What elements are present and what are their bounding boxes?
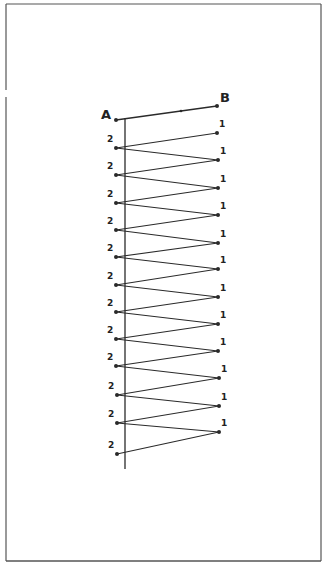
label-right-1: 1 bbox=[220, 337, 226, 347]
point-left bbox=[115, 393, 119, 397]
zigzag-segment bbox=[117, 378, 219, 395]
label-right-1: 1 bbox=[220, 174, 226, 184]
label-left-2: 2 bbox=[108, 381, 114, 391]
label-a: A bbox=[101, 107, 111, 122]
point-right bbox=[217, 404, 221, 408]
label-left-2: 2 bbox=[108, 409, 114, 419]
label-right-1: 1 bbox=[220, 255, 226, 265]
label-left-2: 2 bbox=[107, 271, 113, 281]
point-right bbox=[216, 158, 220, 162]
label-right-1: 1 bbox=[221, 418, 227, 428]
label-left-2: 2 bbox=[107, 161, 113, 171]
point-left bbox=[114, 337, 118, 341]
zigzag-segment bbox=[117, 406, 219, 423]
label-right-1: 1 bbox=[221, 392, 227, 402]
point-right bbox=[216, 213, 220, 217]
point-mid bbox=[180, 110, 183, 113]
point-left bbox=[114, 146, 118, 150]
zigzag-segment bbox=[116, 366, 219, 378]
zigzag-segment bbox=[116, 203, 218, 215]
zigzag-segment bbox=[116, 215, 218, 230]
zigzag-segment bbox=[116, 257, 218, 269]
point-left bbox=[114, 310, 118, 314]
zigzag-segment bbox=[116, 312, 218, 324]
label-left-2: 2 bbox=[107, 216, 113, 226]
label-right-1: 1 bbox=[220, 310, 226, 320]
label-left-2: 2 bbox=[107, 352, 113, 362]
zigzag-segment bbox=[116, 188, 218, 203]
point-left bbox=[114, 283, 118, 287]
point-right bbox=[216, 295, 220, 299]
label-right-1: 1 bbox=[219, 119, 225, 129]
label-right-1: 1 bbox=[220, 201, 226, 211]
point-left bbox=[115, 421, 119, 425]
zigzag-segment bbox=[117, 395, 219, 406]
point-left bbox=[114, 173, 118, 177]
point-a bbox=[114, 118, 118, 122]
point-right bbox=[216, 322, 220, 326]
line-a-b bbox=[116, 106, 217, 120]
label-left-2: 2 bbox=[107, 325, 113, 335]
label-left-2: 2 bbox=[107, 243, 113, 253]
point-right bbox=[217, 376, 221, 380]
label-left-2: 2 bbox=[107, 298, 113, 308]
zigzag-segment bbox=[116, 160, 218, 175]
point-right bbox=[216, 267, 220, 271]
diagram-canvas: A B 111111111111222222222222 bbox=[0, 0, 324, 570]
label-right-1: 1 bbox=[220, 229, 226, 239]
label-right-1: 1 bbox=[220, 146, 226, 156]
label-b: B bbox=[220, 90, 230, 105]
zigzag-segment bbox=[116, 148, 218, 160]
zigzag-segment bbox=[116, 351, 218, 366]
point-right bbox=[215, 131, 219, 135]
point-right bbox=[216, 241, 220, 245]
label-left-2: 2 bbox=[108, 440, 114, 450]
zigzag-segment bbox=[116, 285, 218, 297]
label-right-1: 1 bbox=[221, 364, 227, 374]
point-left bbox=[114, 201, 118, 205]
zigzag-segment bbox=[116, 269, 218, 285]
point-left bbox=[114, 228, 118, 232]
segment-ab bbox=[116, 106, 217, 120]
point-right bbox=[216, 349, 220, 353]
zigzag-segment bbox=[116, 297, 218, 312]
point-left bbox=[114, 364, 118, 368]
zigzag-segment bbox=[117, 423, 219, 432]
frame-border bbox=[6, 4, 321, 561]
label-left-2: 2 bbox=[107, 134, 113, 144]
zigzag-lines bbox=[116, 133, 219, 454]
zigzag-segment bbox=[117, 432, 219, 454]
point-left bbox=[114, 255, 118, 259]
point-right bbox=[216, 186, 220, 190]
zigzag-segment bbox=[116, 243, 218, 257]
label-right-1: 1 bbox=[220, 283, 226, 293]
label-left-2: 2 bbox=[107, 189, 113, 199]
point-right bbox=[217, 430, 221, 434]
point-left bbox=[115, 452, 119, 456]
point-b bbox=[215, 104, 219, 108]
zigzag-segment bbox=[116, 133, 217, 148]
zigzag-segment bbox=[116, 324, 218, 339]
zigzag-segment bbox=[116, 339, 218, 351]
zigzag-segment bbox=[116, 230, 218, 243]
points bbox=[114, 104, 221, 456]
zigzag-segment bbox=[116, 175, 218, 188]
